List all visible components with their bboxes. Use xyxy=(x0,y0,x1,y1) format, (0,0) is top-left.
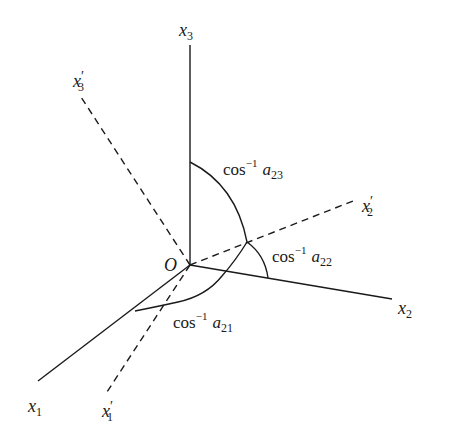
angle-label-a23: cos−1a23 xyxy=(223,157,283,182)
axis-x2 xyxy=(190,265,392,299)
label-x1-prime: x′1 xyxy=(101,399,113,424)
axis-x3-prime xyxy=(81,97,190,265)
label-x3-prime: x′3 xyxy=(72,69,84,94)
arc-a22 xyxy=(247,242,268,278)
label-x3: x3 xyxy=(178,20,193,43)
label-x2-prime: x′2 xyxy=(361,194,373,219)
arc-a21 xyxy=(135,242,247,311)
origin-label: O xyxy=(164,255,177,275)
angle-label-a21: cos−1a21 xyxy=(173,310,233,335)
axis-x1 xyxy=(38,265,190,381)
angle-label-a22: cos−1a22 xyxy=(272,244,332,269)
label-x2: x2 xyxy=(397,298,412,321)
rotation-diagram: O x3 x2 x1 x′3 x′2 x′1 cos−1a23 cos−1a22… xyxy=(0,0,452,448)
label-x1: x1 xyxy=(27,396,42,419)
